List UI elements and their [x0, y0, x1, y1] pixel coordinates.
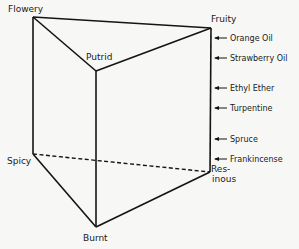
marker-label: Turpentine	[229, 104, 273, 113]
edge-putrid-fruity	[96, 28, 211, 71]
edge-burnt-resinous	[96, 172, 210, 227]
marker-turpentine: Turpentine	[214, 104, 273, 113]
vertex-label-burnt: Burnt	[83, 233, 108, 243]
marker-label: Ethyl Ether	[230, 84, 275, 93]
marker-label: Frankincense	[230, 155, 283, 164]
marker-spruce: Spruce	[214, 135, 258, 144]
arrow-left-icon	[214, 56, 219, 60]
marker-label: Orange Oil	[230, 34, 273, 43]
vertex-label-spicy: Spicy	[7, 156, 32, 166]
arrow-left-icon	[214, 36, 219, 40]
edge-flowery-fruity	[33, 17, 211, 28]
marker-label: Strawberry Oil	[230, 54, 287, 63]
prism-svg: Flowery Fruity Putrid Spicy Res- inous B…	[0, 0, 299, 249]
marker-label: Spruce	[230, 135, 258, 144]
marker-ethyl-ether: Ethyl Ether	[214, 84, 275, 93]
marker-frankincense: Frankincense	[214, 155, 283, 164]
arrow-left-icon	[214, 137, 219, 141]
arrow-left-icon	[214, 106, 219, 110]
vertex-label-putrid: Putrid	[86, 52, 112, 62]
edge-fruity-resinous	[210, 28, 211, 172]
marker-strawberry-oil: Strawberry Oil	[214, 54, 287, 63]
vertex-label-flowery: Flowery	[8, 4, 44, 14]
arrow-left-icon	[214, 86, 219, 90]
odor-prism-diagram: Flowery Fruity Putrid Spicy Res- inous B…	[0, 0, 299, 249]
edge-flowery-putrid	[33, 17, 96, 71]
arrow-left-icon	[214, 157, 219, 161]
vertex-label-fruity: Fruity	[211, 14, 237, 24]
edge-spicy-burnt	[33, 154, 96, 227]
vertex-label-resinous-1: Res-	[211, 164, 230, 174]
vertex-label-resinous-2: inous	[212, 174, 236, 184]
marker-orange-oil: Orange Oil	[214, 34, 273, 43]
edge-spicy-resinous-hidden	[33, 154, 210, 172]
